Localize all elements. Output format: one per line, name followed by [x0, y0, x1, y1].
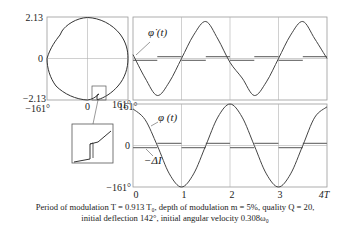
- deflection-xtick-3: 3: [278, 189, 283, 200]
- deflection-ytick-top: 161°: [112, 99, 131, 110]
- deflection-ytick-mid: 0: [125, 140, 130, 151]
- phase-xtick-mid: 0: [85, 101, 90, 112]
- deflection-xtick-0: 0: [134, 189, 139, 200]
- phase-ytick-mid: 0: [38, 53, 43, 64]
- phase-xtick-left: −161°: [25, 103, 50, 114]
- caption-line-1: Period of modulation T = 0.913 T₀, depth…: [0, 202, 350, 213]
- deflection-xtick-4: 4T: [319, 189, 331, 200]
- caption-line-2: initial deflection 142°, initial angular…: [0, 213, 350, 224]
- deflection-xtick-2: 2: [230, 189, 235, 200]
- inset-magnified: [72, 124, 113, 163]
- deflection-label-leader: [151, 122, 158, 126]
- deflection-ytick-bottom: −161°: [106, 182, 131, 193]
- velocity-curve-label: φ̇ (t): [148, 26, 168, 39]
- deflection-xtick-1: 1: [182, 189, 187, 200]
- zoom-connector: [93, 100, 98, 124]
- deflection-curve-label: φ (t): [158, 111, 178, 124]
- phase-ytick-top: 2.13: [26, 12, 44, 23]
- velocity-plot: φ̇ (t): [133, 17, 327, 100]
- velocity-label-leader: [136, 42, 150, 55]
- deflection-plot: φ (t) −ΔI 161° 0 −161° 0 1 2 3 4T: [106, 99, 330, 200]
- figure: 2.13 0 −2.13 −161° 0 161° φ̇ (t) φ (t): [0, 0, 350, 231]
- current-label: −ΔI: [144, 154, 163, 166]
